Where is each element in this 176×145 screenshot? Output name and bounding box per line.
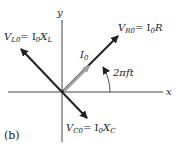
angle-arc (103, 67, 110, 92)
vl0-arrow (21, 49, 62, 92)
y-axis-label: y (56, 7, 63, 18)
i0-label: I0 (79, 49, 89, 62)
x-axis-label: x (166, 86, 172, 97)
phasor-diagram: x y 2πft VL0= I0XL VR0= I0R I0 VC0= I0XC… (0, 0, 176, 145)
panel-label: (b) (4, 129, 20, 142)
vc0-arrow (62, 92, 87, 118)
i0-arrow (64, 66, 89, 91)
angle-label: 2πft (112, 67, 135, 78)
vr0-label: VR0= I0R (118, 22, 163, 35)
vc0-label: VC0= I0XC (66, 122, 116, 135)
vl0-label: VL0= I0XL (4, 31, 52, 44)
